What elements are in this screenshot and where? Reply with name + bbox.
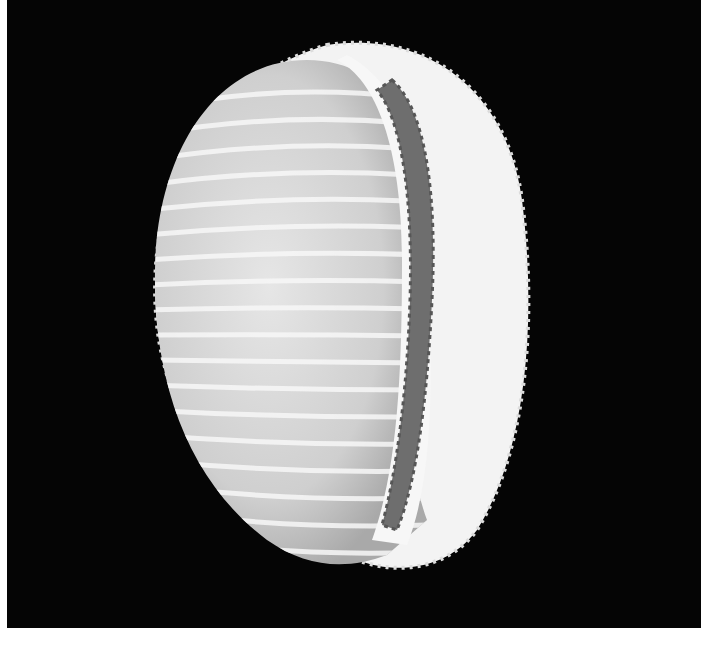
- shell-illustration: [7, 0, 701, 628]
- shell-photo: [7, 0, 701, 628]
